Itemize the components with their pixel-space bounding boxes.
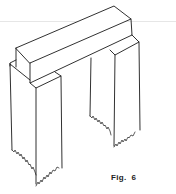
- figure-caption: Fig. 6: [111, 173, 136, 182]
- trilithon-illustration: [0, 0, 176, 194]
- left-pillar: [10, 60, 62, 184]
